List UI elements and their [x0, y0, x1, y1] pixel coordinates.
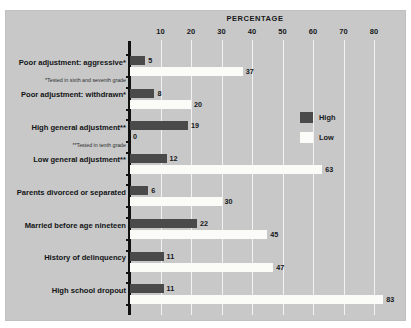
bar-high-4 [130, 186, 148, 195]
category-label-column: Poor adjustment: aggressive*Poor adjustm… [4, 0, 126, 328]
category-tick [126, 174, 131, 176]
bar-value-low-1: 20 [194, 100, 202, 109]
bar-high-1 [130, 89, 154, 98]
category-label-4: Parents divorced or separated [4, 187, 126, 196]
bar-value-high-5: 22 [200, 219, 208, 228]
category-tick [126, 239, 131, 241]
gridline-70 [344, 40, 345, 315]
category-tick [126, 109, 131, 111]
bar-value-low-6: 47 [276, 263, 284, 272]
x-tick-label-20: 20 [187, 27, 195, 36]
x-tick-label-30: 30 [217, 27, 225, 36]
bar-high-6 [130, 252, 164, 261]
bar-value-high-2: 19 [191, 121, 199, 130]
category-tick [126, 206, 131, 208]
x-tick-label-50: 50 [278, 27, 286, 36]
bar-low-0 [130, 67, 243, 76]
x-tick-label-80: 80 [370, 27, 378, 36]
bar-low-3 [130, 165, 322, 174]
legend-swatch-high [300, 112, 313, 123]
category-axis-line [128, 41, 131, 315]
x-tick-label-40: 40 [248, 27, 256, 36]
bar-low-4 [130, 197, 222, 206]
gridline-60 [313, 40, 314, 315]
gridline-10 [161, 40, 162, 315]
gridline-50 [283, 40, 284, 315]
x-tick-label-10: 10 [156, 27, 164, 36]
bar-low-5 [130, 230, 267, 239]
footnote-one: *Tested in sixth and seventh grade [4, 77, 126, 83]
bar-low-7 [130, 295, 383, 304]
x-tick-label-70: 70 [339, 27, 347, 36]
category-label-2: High general adjustment** [4, 122, 126, 131]
legend-swatch-low [300, 132, 313, 143]
gridline-80 [374, 40, 375, 315]
category-tick [126, 141, 131, 143]
bar-value-high-0: 5 [148, 56, 152, 65]
bar-value-low-4: 30 [225, 197, 233, 206]
chart-container: PERCENTAGE 1020304050607080 Poor adjustm… [0, 0, 411, 328]
bar-high-0 [130, 56, 145, 65]
bar-high-2 [130, 121, 188, 130]
bar-value-high-6: 11 [167, 252, 175, 261]
bar-value-low-7: 83 [386, 295, 394, 304]
legend-label-high: High [319, 112, 335, 123]
category-label-6: History of delinquency [4, 253, 126, 262]
bar-value-high-7: 11 [167, 284, 175, 293]
x-tick-label-60: 60 [309, 27, 317, 36]
bar-value-low-2: 0 [133, 132, 137, 141]
category-tick [126, 272, 131, 274]
bar-high-7 [130, 284, 164, 293]
bar-value-low-0: 37 [246, 67, 254, 76]
bar-value-low-3: 63 [325, 165, 333, 174]
category-tick [126, 304, 131, 306]
category-label-7: High school dropout [4, 285, 126, 294]
gridline-40 [252, 40, 253, 315]
legend-label-low: Low [319, 132, 334, 143]
gridline-30 [222, 40, 223, 315]
footnote-two: **Tested in tenth grade [4, 142, 126, 148]
category-label-3: Low general adjustment** [4, 155, 126, 164]
bar-value-high-3: 12 [170, 154, 178, 163]
bar-value-low-5: 45 [270, 230, 278, 239]
bar-value-high-1: 8 [157, 89, 161, 98]
gridline-20 [191, 40, 192, 315]
bar-high-5 [130, 219, 197, 228]
category-label-5: Married before age nineteen [4, 220, 126, 229]
bar-value-high-4: 6 [151, 186, 155, 195]
bar-low-1 [130, 100, 191, 109]
axis-title: PERCENTAGE [129, 14, 381, 23]
category-label-1: Poor adjustment: withdrawn* [4, 90, 126, 99]
category-label-0: Poor adjustment: aggressive* [4, 57, 126, 66]
category-tick [126, 76, 131, 78]
bar-low-6 [130, 263, 273, 272]
bar-high-3 [130, 154, 167, 163]
